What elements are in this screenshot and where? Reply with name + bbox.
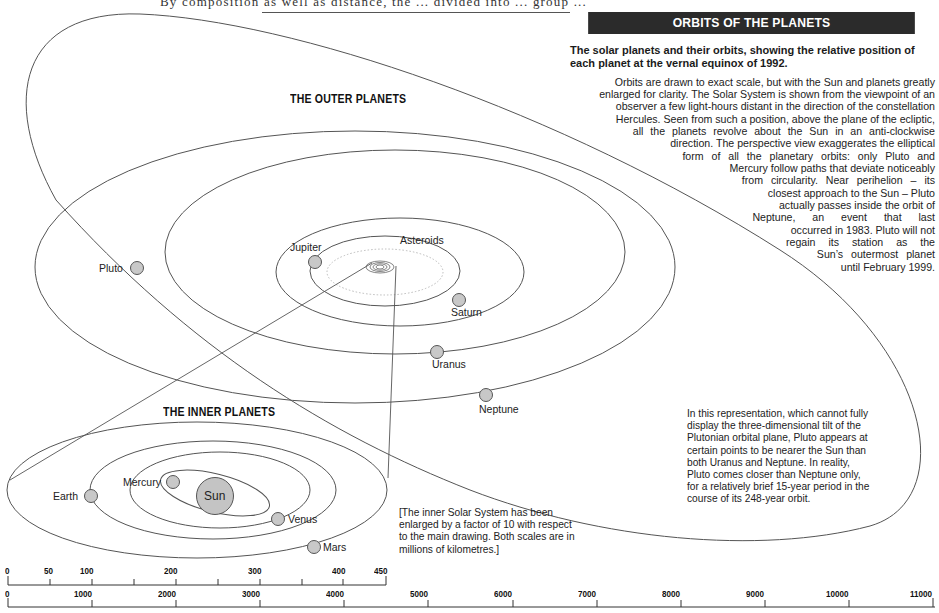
pluto-note-line: for a relatively brief 15-year period in… — [687, 481, 907, 493]
body-line: enlarged for clarity. The Solar System i… — [599, 88, 935, 100]
scale-note-line: [The inner Solar System has been — [399, 507, 599, 519]
outer-scale-tick: 6000 — [494, 588, 512, 599]
pluto-body — [131, 262, 144, 275]
outer-scale-tick: 5000 — [410, 588, 428, 599]
body-line: Mercury follow paths that deviate notice… — [729, 162, 935, 174]
outer-scale-tick: 4000 — [326, 588, 344, 599]
body-line: actually passes inside the orbit of — [779, 199, 935, 211]
outer-scale-tick: 2000 — [158, 588, 176, 599]
earth-body — [85, 490, 98, 503]
inner-scale-tick: 100 — [80, 565, 93, 576]
inner-scale-tick: 450 — [374, 565, 387, 576]
planet-label-sun: Sun — [204, 489, 225, 503]
pluto-note-line: certain points to be nearer the Sun than — [687, 445, 907, 457]
outer-scale-tick: 3000 — [242, 588, 260, 599]
outer-scale-tick: 10000 — [826, 588, 848, 599]
body-line: observer a few light-hours distant in th… — [616, 100, 935, 112]
body-line: all the planets revolve about the Sun in… — [633, 125, 935, 137]
pluto-note-line: display the three-dimensional tilt of th… — [687, 420, 907, 432]
outer-scale-tick: 0 — [5, 588, 10, 599]
jupiter-body — [309, 256, 322, 269]
scale-note-line: millions of kilometres.] — [399, 544, 599, 556]
pluto-note-line: Plutonian orbital plane, Pluto appears a… — [687, 432, 907, 444]
scale-note: [The inner Solar System has been enlarge… — [399, 507, 599, 556]
inner-scale-tick: 50 — [44, 565, 53, 576]
pluto-note-line: Pluto comes closer than Neptune only, — [687, 469, 907, 481]
neptune-body — [480, 389, 493, 402]
pluto-note-line: both Uranus and Neptune. In reality, — [687, 457, 907, 469]
planet-label-jupiter: Jupiter — [290, 241, 322, 253]
inner-scale-tick: 400 — [332, 565, 345, 576]
body-line: Sun’s outermost planet — [817, 248, 935, 260]
scale-note-line: to the main drawing. Both scales are in — [399, 531, 599, 543]
body-line: direction. The perspective view exaggera… — [670, 137, 935, 149]
planet-label-neptune: Neptune — [479, 403, 519, 415]
outer-planets-title: THE OUTER PLANETS — [290, 92, 406, 106]
header-rule — [262, 12, 570, 13]
body-line: until February 1999. — [841, 261, 935, 273]
mercury-body — [167, 476, 180, 489]
planet-label-asteroids: Asteroids — [400, 234, 444, 246]
body-line: Hercules. Seen from such a position, abo… — [616, 113, 935, 125]
outer-scale-tick: 1000 — [74, 588, 92, 599]
body-line: form of all the planetary orbits: only P… — [682, 150, 935, 162]
asteroid-belt — [327, 249, 443, 295]
body-line: closest approach to the Sun – Pluto — [768, 187, 935, 199]
outer-scale-tick: 11000 — [910, 588, 932, 599]
page-title: ORBITS OF THE PLANETS — [588, 12, 915, 34]
outer-scale-tick: 8000 — [662, 588, 680, 599]
planet-label-uranus: Uranus — [432, 358, 466, 370]
outer-scale-tick: 9000 — [746, 588, 764, 599]
saturn-body — [453, 294, 466, 307]
inner-scale-tick: 0 — [5, 565, 10, 576]
lead-caption: The solar planets and their orbits, show… — [570, 44, 935, 70]
uranus-orbit — [165, 150, 625, 354]
planet-label-mercury: Mercury — [123, 476, 161, 488]
page-top-fragment: By composition as well as distance, the … — [160, 0, 587, 10]
outer-scale-tick: 7000 — [578, 588, 596, 599]
inner-scale-tick: 300 — [248, 565, 261, 576]
body-line: Orbits are drawn to exact scale, but wit… — [615, 76, 935, 88]
body-line: from circularity. Near perihelion – its — [742, 174, 935, 186]
pluto-note: In this representation, which cannot ful… — [687, 408, 907, 506]
body-line: regain its station as the — [786, 236, 935, 248]
body-line: Neptune, an event that last — [752, 211, 935, 223]
uranus-body — [431, 346, 444, 359]
body-line: occurred in 1983. Pluto will not — [791, 224, 935, 236]
planet-label-mars: Mars — [323, 541, 346, 553]
venus-body — [272, 513, 285, 526]
planet-label-saturn: Saturn — [451, 306, 482, 318]
inner-planets-title: THE INNER PLANETS — [163, 405, 275, 419]
planet-label-venus: Venus — [288, 513, 317, 525]
pluto-note-line: course of its 248-year orbit. — [687, 493, 907, 505]
scale-note-line: enlarged by a factor of 10 with respect — [399, 519, 599, 531]
pluto-note-line: In this representation, which cannot ful… — [687, 408, 907, 420]
planet-label-pluto: Pluto — [99, 262, 123, 274]
inner-scale-tick: 200 — [164, 565, 177, 576]
mars-body — [308, 541, 321, 554]
planet-label-earth: Earth — [53, 490, 78, 502]
